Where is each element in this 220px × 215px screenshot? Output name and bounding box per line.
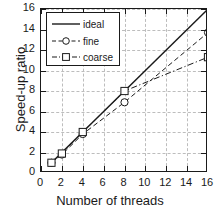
y-tick-mark: [41, 132, 46, 133]
legend-label-coarse: coarse: [83, 52, 113, 63]
x-tick-mark: [187, 9, 188, 14]
legend-entry-ideal: ideal: [51, 17, 104, 31]
y-tick-mark: [41, 71, 46, 72]
x-tick-mark: [62, 166, 63, 171]
x-tick-mark: [166, 166, 167, 171]
x-tick-mark: [187, 166, 188, 171]
legend-entry-fine: fine: [51, 34, 99, 48]
y-tick-label: 0: [11, 165, 35, 177]
legend-label-ideal: ideal: [83, 19, 104, 30]
x-tick-mark: [83, 166, 84, 171]
x-tick-label: 16: [195, 176, 219, 188]
x-tick-mark: [145, 166, 146, 171]
y-tick-mark: [201, 132, 206, 133]
y-tick-mark: [201, 50, 206, 51]
y-tick-mark: [201, 112, 206, 113]
legend-sample-coarse: [51, 51, 81, 63]
data-point-marker: [121, 87, 128, 94]
legend-sample-ideal: [51, 18, 81, 30]
x-tick-mark: [145, 9, 146, 14]
y-tick-mark: [201, 71, 206, 72]
x-tick-mark: [166, 9, 167, 14]
x-tick-mark: [125, 166, 126, 171]
y-tick-mark: [41, 91, 46, 92]
y-tick-mark: [201, 153, 206, 154]
legend: ideal fine coarse: [46, 12, 120, 66]
y-tick-mark: [201, 91, 206, 92]
y-tick-mark: [41, 153, 46, 154]
chart-figure: 0246810121416 0246810121416 Number of th…: [0, 0, 220, 215]
y-tick-mark: [201, 9, 206, 10]
legend-label-fine: fine: [83, 36, 99, 47]
x-tick-mark: [104, 166, 105, 171]
y-tick-mark: [201, 30, 206, 31]
series-coarse: [48, 54, 207, 167]
data-point-marker: [121, 99, 128, 106]
data-point-marker: [79, 128, 86, 135]
y-axis-title: Speed-up ratio: [13, 15, 28, 165]
legend-sample-fine: [51, 35, 81, 47]
data-point-marker: [48, 159, 55, 166]
x-axis-title: Number of threads: [0, 193, 220, 208]
data-point-marker: [204, 54, 207, 61]
x-tick-mark: [41, 166, 42, 171]
y-tick-label: 16: [11, 1, 35, 13]
series-line: [51, 57, 207, 163]
y-tick-mark: [41, 112, 46, 113]
legend-entry-coarse: coarse: [51, 50, 113, 64]
data-point-marker: [58, 150, 65, 157]
y-tick-mark: [41, 9, 46, 10]
x-tick-mark: [125, 9, 126, 14]
